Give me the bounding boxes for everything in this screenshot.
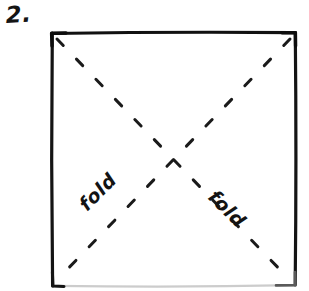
square-corner-bottom-left [52, 272, 64, 286]
square-edge-left [52, 33, 53, 286]
square-edge-top [52, 32, 296, 33]
fold-lines [57, 39, 290, 280]
square-fold-diagram [0, 0, 309, 291]
square-edge-bottom [53, 285, 295, 286]
step-number-label: 2. [5, 1, 32, 28]
square-corner-bottom-right [276, 272, 295, 285]
square-edge-right [295, 33, 296, 286]
